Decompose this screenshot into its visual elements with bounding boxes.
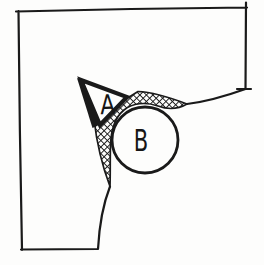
label-circle-b: B bbox=[134, 122, 148, 158]
hand-drawn-diagram: A B bbox=[0, 0, 264, 265]
diagram-canvas: A B bbox=[0, 0, 264, 265]
label-triangle-a: A bbox=[100, 88, 116, 121]
